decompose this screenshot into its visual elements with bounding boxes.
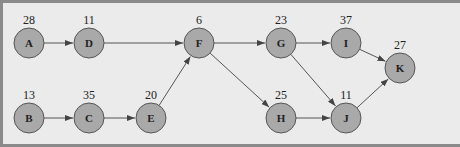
node-label: E [147,112,154,124]
node-weight: 25 [275,88,287,102]
edge-i-k [360,49,386,61]
node-label: B [25,112,33,124]
node-weight: 37 [340,13,352,27]
node-b: B13 [14,88,44,133]
node-label: K [396,62,405,74]
node-label: J [343,112,349,124]
edge-g-j [291,54,336,106]
node-i: I37 [331,13,361,58]
node-h: H25 [266,88,296,133]
node-k: K27 [385,38,415,83]
node-e: E20 [136,88,166,133]
node-weight: 13 [23,88,35,102]
nodes-layer: A28D11F6G23I37K27B13C35E20H25J11 [14,13,415,133]
node-label: I [344,37,348,49]
node-label: D [85,37,93,49]
node-weight: 6 [196,13,202,27]
node-d: D11 [74,13,104,58]
node-label: C [85,112,93,124]
node-weight: 27 [394,38,406,52]
node-weight: 23 [275,13,287,27]
node-label: G [277,37,286,49]
edge-j-k [357,79,388,108]
edge-e-f [159,57,190,106]
node-weight: 11 [83,13,95,27]
node-j: J11 [331,88,361,133]
node-weight: 11 [340,88,352,102]
node-g: G23 [266,13,296,58]
node-label: H [277,112,286,124]
edge-f-h [210,53,269,107]
node-weight: 28 [23,13,35,27]
node-weight: 20 [145,88,157,102]
node-c: C35 [74,88,104,133]
node-label: F [196,37,203,49]
node-label: A [25,37,33,49]
node-f: F6 [184,13,214,58]
node-a: A28 [14,13,44,58]
node-weight: 35 [83,88,95,102]
network-graph: A28D11F6G23I37K27B13C35E20H25J11 [0,0,460,147]
